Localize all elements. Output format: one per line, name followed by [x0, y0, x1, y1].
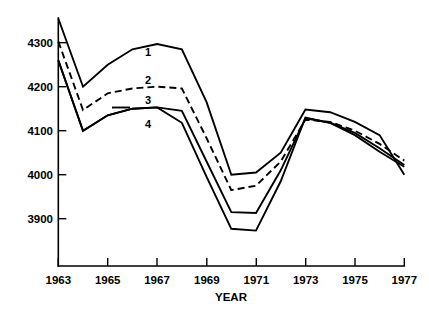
- series-line-1: [58, 19, 404, 175]
- x-tick-label-1967: 1967: [144, 274, 170, 286]
- x-tick-label-1975: 1975: [342, 274, 368, 286]
- series-label-1: 1: [145, 46, 151, 58]
- x-tick-label-1963: 1963: [46, 274, 72, 286]
- y-tick-label-4000: 4000: [27, 169, 53, 181]
- y-tick-label-4100: 4100: [27, 125, 53, 137]
- series-group: [58, 19, 404, 231]
- x-axis-title: YEAR: [215, 291, 248, 303]
- series-label-4: 4: [145, 118, 152, 130]
- series-label-2: 2: [145, 74, 151, 86]
- y-tick-label-3900: 3900: [27, 213, 53, 225]
- chart-canvas: 4300 4200 4100 4000 3900 1963 1965 1967 …: [0, 0, 429, 309]
- x-tick-label-1969: 1969: [194, 274, 220, 286]
- y-tick-label-4200: 4200: [27, 81, 53, 93]
- series-line-4: [58, 60, 404, 230]
- series-label-3: 3: [145, 94, 151, 106]
- x-tick-marks: [58, 258, 404, 266]
- line-chart: 4300 4200 4100 4000 3900 1963 1965 1967 …: [0, 0, 429, 309]
- x-tick-label-1965: 1965: [95, 274, 121, 286]
- y-tick-label-4300: 4300: [27, 37, 53, 49]
- x-tick-label-1977: 1977: [392, 274, 418, 286]
- x-tick-label-1971: 1971: [244, 274, 270, 286]
- x-tick-label-1973: 1973: [293, 274, 319, 286]
